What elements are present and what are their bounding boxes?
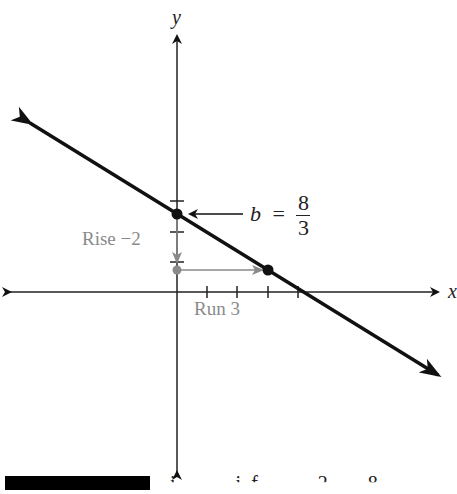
second-point	[263, 265, 274, 276]
caption-text: iif28	[165, 472, 378, 494]
caption-label-box	[5, 476, 150, 490]
run-label: Run 3	[194, 298, 240, 320]
intercept-point	[172, 209, 183, 220]
intercept-denominator: 3	[298, 217, 309, 239]
intercept-fraction: 8 3	[296, 192, 310, 239]
equals-sign: =	[273, 201, 285, 226]
x-axis-label: x	[448, 280, 457, 303]
intercept-label: b = 8 3	[250, 192, 310, 239]
intercept-var: b	[250, 201, 261, 226]
x-axis	[10, 286, 438, 298]
intercept-numerator: 8	[298, 192, 309, 214]
rise-label: Rise −2	[82, 228, 141, 250]
y-axis-label: y	[172, 6, 181, 29]
gray-point	[173, 266, 182, 275]
